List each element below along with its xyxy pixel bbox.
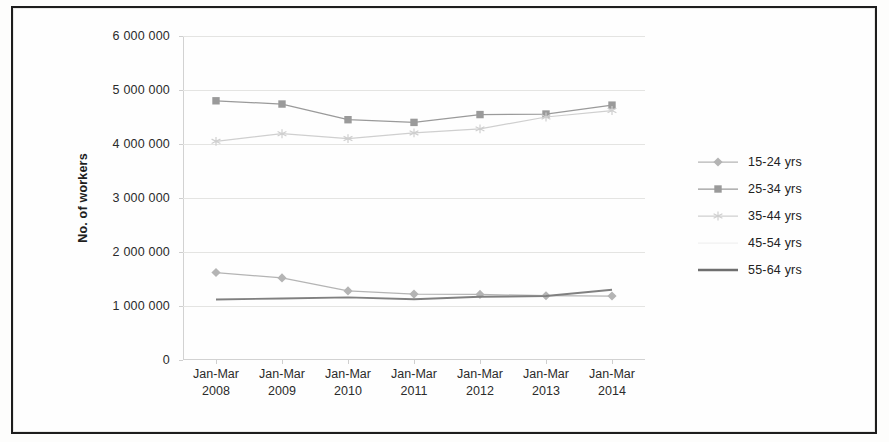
- y-axis-tick-label: 2 000 000: [113, 245, 170, 259]
- legend-item-35-44-yrs[interactable]: 35-44 yrs: [697, 202, 847, 229]
- x-axis-tick-label-year: 2014: [589, 383, 635, 400]
- x-axis-tick-label: Jan-Mar2013: [523, 366, 569, 400]
- x-axis-tick-label-period: Jan-Mar: [523, 367, 569, 381]
- legend-label: 35-44 yrs: [748, 209, 802, 223]
- series-25-34-yrs: [212, 97, 615, 126]
- legend-item-45-54-yrs[interactable]: 45-54 yrs: [697, 229, 847, 256]
- y-axis-tick-label: 6 000 000: [113, 29, 170, 43]
- x-axis-tick-label-year: 2009: [259, 383, 305, 400]
- x-axis-tick: [546, 360, 547, 364]
- legend-label: 25-34 yrs: [748, 182, 802, 196]
- y-axis-tick-label: 0: [163, 353, 170, 367]
- x-axis-tick-label-period: Jan-Mar: [259, 367, 305, 381]
- data-point-marker: [410, 119, 417, 126]
- series-lines: [183, 36, 645, 360]
- y-axis-tick-label: 1 000 000: [113, 299, 170, 313]
- legend-label: 55-64 yrs: [748, 263, 802, 277]
- data-point-marker: [211, 268, 220, 277]
- x-axis-tick-labels: Jan-Mar2008Jan-Mar2009Jan-Mar2010Jan-Mar…: [183, 366, 645, 416]
- x-axis-tick-label-year: 2011: [391, 383, 437, 400]
- plot-area: [183, 36, 645, 360]
- data-point-marker: [607, 291, 616, 300]
- y-axis-tick-label: 3 000 000: [113, 191, 170, 205]
- x-axis-tick-label: Jan-Mar2008: [193, 366, 239, 400]
- chart-screenshot: No. of workers 01 000 0002 000 0003 000 …: [0, 0, 889, 442]
- x-axis-tick-label: Jan-Mar2014: [589, 366, 635, 400]
- y-axis-tick: [179, 360, 183, 361]
- data-point-marker: [714, 185, 721, 192]
- y-axis-tick-labels: 01 000 0002 000 0003 000 0004 000 0005 0…: [0, 0, 176, 442]
- data-point-marker: [409, 290, 418, 299]
- legend-item-25-34-yrs[interactable]: 25-34 yrs: [697, 175, 847, 202]
- x-axis-tick-label: Jan-Mar2010: [325, 366, 371, 400]
- data-point-marker: [713, 157, 722, 166]
- data-point-marker: [212, 97, 219, 104]
- data-point-marker: [476, 111, 483, 118]
- legend-label: 15-24 yrs: [748, 155, 802, 169]
- x-axis-tick: [612, 360, 613, 364]
- legend-item-15-24-yrs[interactable]: 15-24 yrs: [697, 148, 847, 175]
- x-axis-tick: [348, 360, 349, 364]
- x-axis-tick-label-year: 2012: [457, 383, 503, 400]
- x-axis-tick-label-year: 2013: [523, 383, 569, 400]
- x-axis-tick-label-period: Jan-Mar: [589, 367, 635, 381]
- x-axis-tick-label: Jan-Mar2012: [457, 366, 503, 400]
- x-axis-tick-label-period: Jan-Mar: [193, 367, 239, 381]
- x-axis-tick-label-period: Jan-Mar: [457, 367, 503, 381]
- data-point-marker: [344, 116, 351, 123]
- legend-key-line-icon: [697, 263, 739, 277]
- x-axis-tick: [414, 360, 415, 364]
- legend-key-square-icon: [697, 182, 739, 196]
- x-axis-tick-label-period: Jan-Mar: [391, 367, 437, 381]
- x-axis-tick-label-year: 2010: [325, 383, 371, 400]
- data-point-marker: [278, 100, 285, 107]
- x-axis-tick: [480, 360, 481, 364]
- legend-key-star-icon: [697, 209, 739, 223]
- x-axis-tick-label: Jan-Mar2009: [259, 366, 305, 400]
- x-axis-tick-label-year: 2008: [193, 383, 239, 400]
- legend-item-55-64-yrs[interactable]: 55-64 yrs: [697, 256, 847, 283]
- data-point-marker: [277, 273, 286, 282]
- chart-legend: 15-24 yrs25-34 yrs35-44 yrs45-54 yrs55-6…: [697, 148, 847, 283]
- data-point-marker: [343, 286, 352, 295]
- legend-label: 45-54 yrs: [748, 236, 802, 250]
- x-axis-tick-label: Jan-Mar2011: [391, 366, 437, 400]
- x-axis-tick-label-period: Jan-Mar: [325, 367, 371, 381]
- y-axis-tick-label: 5 000 000: [113, 83, 170, 97]
- x-axis-tick: [216, 360, 217, 364]
- legend-key-none-icon: [697, 236, 739, 250]
- y-axis-tick-label: 4 000 000: [113, 137, 170, 151]
- legend-key-diamond-icon: [697, 155, 739, 169]
- x-axis-tick: [282, 360, 283, 364]
